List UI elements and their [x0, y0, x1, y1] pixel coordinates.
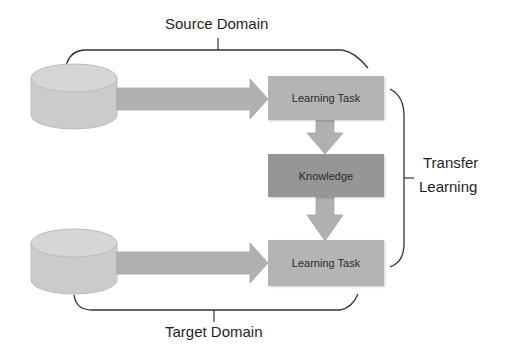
source-arrow-icon	[117, 79, 268, 119]
knowledge-label: Knowledge	[299, 170, 353, 182]
target-domain-bracket	[74, 294, 358, 310]
down-arrow-icon	[307, 120, 343, 154]
source-domain-label: Source Domain	[165, 15, 268, 32]
knowledge-box: Knowledge	[268, 154, 384, 197]
source-learning-task-label: Learning Task	[292, 92, 360, 104]
transfer-learning-label-line1: Transfer	[423, 154, 478, 171]
target-arrow-icon	[117, 243, 268, 283]
target-learning-task-box: Learning Task	[268, 240, 384, 286]
source-domain-bracket	[66, 50, 368, 68]
target-learning-task-label: Learning Task	[292, 257, 360, 269]
source-database-icon	[31, 64, 117, 129]
target-domain-label: Target Domain	[165, 323, 263, 340]
source-learning-task-box: Learning Task	[268, 76, 384, 120]
target-database-icon	[31, 229, 117, 294]
transfer-learning-bracket	[390, 89, 404, 267]
transfer-learning-label-line2: Learning	[419, 178, 477, 195]
down-arrow-icon	[307, 197, 343, 241]
